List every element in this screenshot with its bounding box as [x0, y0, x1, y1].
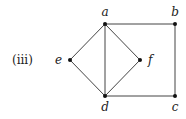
vertex-e	[68, 58, 72, 62]
vertex-label-f: f	[147, 53, 155, 67]
figure-label: (iii)	[12, 53, 33, 67]
vertex-b	[173, 22, 177, 26]
edge-e-d	[70, 60, 105, 96]
vertex-label-b: b	[171, 5, 179, 19]
vertex-c	[173, 94, 177, 98]
vertex-f	[138, 58, 142, 62]
edge-f-d	[105, 60, 140, 96]
edge-a-e	[70, 24, 105, 60]
vertex-label-c: c	[172, 100, 179, 114]
edge-a-f	[105, 24, 140, 60]
vertex-label-a: a	[101, 5, 108, 19]
graph-diagram: (iii) abcdef	[0, 0, 186, 119]
vertex-d	[103, 94, 107, 98]
vertex-a	[103, 22, 107, 26]
vertex-label-e: e	[55, 53, 62, 67]
vertex-label-d: d	[101, 100, 109, 114]
